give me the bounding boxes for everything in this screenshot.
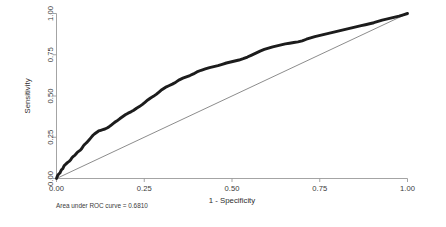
plot-series [57, 14, 408, 179]
y-tick-label: 0.75 [46, 47, 55, 62]
x-tick-label: 0.25 [137, 184, 152, 193]
y-tick-label: 1.00 [46, 6, 55, 21]
x-axis-ticks [57, 179, 408, 183]
y-axis-tick-labels: 0.000.250.500.751.00 [46, 6, 55, 186]
auc-annotation: Area under ROC curve = 0.6810 [56, 202, 148, 209]
y-tick-label: 0.25 [46, 130, 55, 145]
x-tick-label: 0.50 [225, 184, 240, 193]
roc-chart-figure: 0.000.250.500.751.00 0.000.250.500.751.0… [0, 0, 446, 227]
x-tick-label: 1.00 [400, 184, 415, 193]
roc-plot-canvas: 0.000.250.500.751.00 0.000.250.500.751.0… [0, 0, 446, 227]
x-tick-label: 0.75 [312, 184, 327, 193]
y-tick-label: 0.00 [46, 171, 55, 186]
y-axis-title: Sensitivity [23, 78, 32, 113]
x-axis-title: 1 - Specificity [209, 196, 255, 205]
y-tick-label: 0.50 [46, 89, 55, 104]
x-axis-tick-labels: 0.000.250.500.751.00 [49, 184, 415, 193]
chance-reference-line [57, 14, 408, 179]
